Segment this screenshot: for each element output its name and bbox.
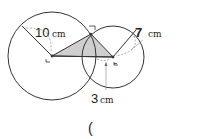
label-3-unit: cm [100,95,114,105]
small-radius-line [113,30,136,57]
large-center-mark [46,59,50,62]
small-center-dot [112,56,115,59]
small-center-mark [114,62,118,65]
label-10-value: 10 [35,25,49,40]
answer-paren: ( [88,120,93,136]
intersection-mark [89,26,95,30]
dashed-arc-7cm [116,36,135,56]
large-center-dot [51,55,54,58]
arrow-3cm [105,62,108,66]
label-3-value: 3 [91,91,98,106]
label-7-unit: cm [148,29,162,39]
geometry-diagram: 10 cm 7 cm 3 cm ( [0,0,218,139]
dashed-arc-3cm [97,59,110,61]
label-10-unit: cm [52,29,66,39]
intersection-dot [90,33,92,35]
label-7-value: 7 [135,25,142,40]
